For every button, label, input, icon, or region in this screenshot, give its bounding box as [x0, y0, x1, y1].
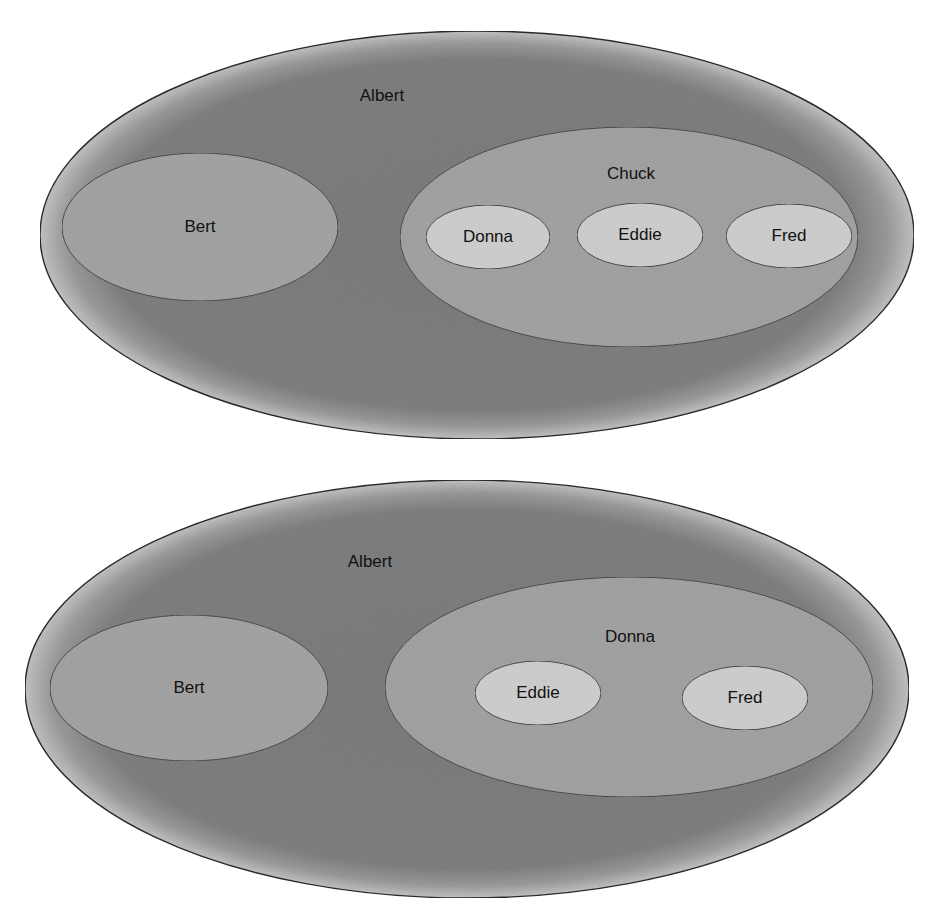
set-label-chuck: Chuck: [607, 164, 656, 183]
diagram-1: Albert Bert Chuck Donna Eddie Fred: [40, 31, 914, 439]
set-bert: Bert: [50, 615, 328, 761]
set-bert: Bert: [62, 153, 338, 301]
diagram-2: Albert Bert Donna Eddie Fred: [25, 480, 909, 898]
set-label-fred: Fred: [728, 688, 763, 707]
set-label-eddie: Eddie: [618, 225, 661, 244]
set-donna: Donna: [426, 205, 550, 269]
set-fred: Fred: [726, 204, 852, 268]
set-label-donna: Donna: [605, 627, 656, 646]
set-label-bert: Bert: [173, 678, 204, 697]
set-label-donna: Donna: [463, 227, 514, 246]
set-eddie: Eddie: [475, 661, 601, 725]
set-label-albert: Albert: [360, 86, 405, 105]
set-fred: Fred: [682, 666, 808, 730]
set-label-fred: Fred: [772, 226, 807, 245]
set-label-eddie: Eddie: [516, 683, 559, 702]
set-eddie: Eddie: [577, 203, 703, 267]
set-label-bert: Bert: [184, 217, 215, 236]
nested-set-diagrams: Albert Bert Chuck Donna Eddie Fred Alber…: [0, 0, 935, 923]
set-label-albert: Albert: [348, 552, 393, 571]
